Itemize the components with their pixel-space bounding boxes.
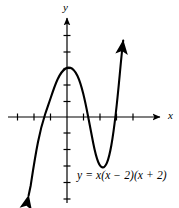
graph-figure: y x y = x(x − 2)(x + 2) — [0, 0, 179, 208]
y-axis — [64, 18, 71, 203]
x-axis — [8, 114, 160, 121]
equation-annotation: y = x(x − 2)(x + 2) — [77, 169, 167, 182]
y-axis-label: y — [63, 2, 68, 13]
x-axis-label: x — [168, 110, 173, 121]
